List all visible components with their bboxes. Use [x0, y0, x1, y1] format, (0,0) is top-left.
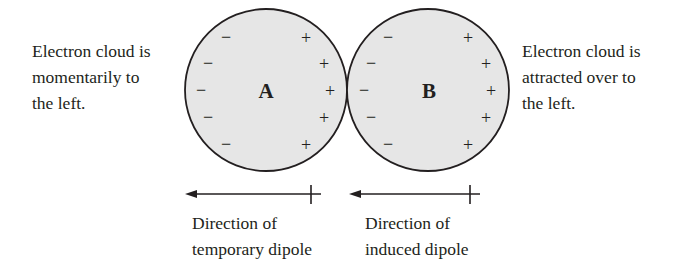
positive-charge-icon: +: [463, 135, 473, 155]
positive-charge-icon: +: [486, 81, 496, 101]
negative-charge-icon: −: [383, 134, 393, 154]
negative-charge-icon: −: [221, 27, 231, 47]
positive-charge-icon: +: [481, 54, 491, 74]
positive-charge-icon: +: [319, 54, 329, 74]
induced-dipole-arrow: [349, 185, 480, 204]
negative-charge-icon: −: [366, 53, 376, 73]
temporary-dipole-caption: Direction of temporary dipole: [192, 210, 312, 262]
positive-charge-icon: +: [463, 28, 473, 48]
positive-charge-icon: +: [319, 108, 329, 128]
temporary-dipole-caption-line-2: temporary dipole: [192, 236, 312, 262]
arrowhead-icon: [185, 190, 197, 198]
atom-b-label: B: [422, 79, 436, 103]
positive-charge-icon: +: [301, 28, 311, 48]
positive-charge-icon: +: [325, 81, 335, 101]
induced-dipole-caption-line-1: Direction of: [365, 210, 469, 236]
atom-a: A − − − − − + + + + +: [185, 9, 347, 171]
negative-charge-icon: −: [203, 107, 213, 127]
negative-charge-icon: −: [366, 107, 376, 127]
positive-charge-icon: +: [301, 135, 311, 155]
negative-charge-icon: −: [359, 80, 369, 100]
induced-dipole-caption: Direction of induced dipole: [365, 210, 469, 262]
dipole-diagram: A − − − − − + + + + + B − − − − − + + + …: [0, 0, 690, 280]
atom-a-label: A: [258, 79, 274, 103]
atom-b: B − − − − − + + + + +: [347, 9, 509, 171]
negative-charge-icon: −: [203, 53, 213, 73]
arrowhead-icon: [349, 190, 361, 198]
positive-charge-icon: +: [481, 108, 491, 128]
negative-charge-icon: −: [221, 134, 231, 154]
negative-charge-icon: −: [383, 27, 393, 47]
temporary-dipole-arrow: [185, 185, 321, 204]
temporary-dipole-caption-line-1: Direction of: [192, 210, 312, 236]
induced-dipole-caption-line-2: induced dipole: [365, 236, 469, 262]
negative-charge-icon: −: [196, 80, 206, 100]
